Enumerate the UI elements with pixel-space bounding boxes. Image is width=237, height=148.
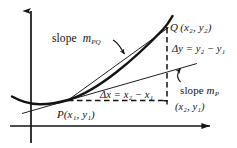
label-delta-x: Δx = x₂ − x₁	[100, 90, 153, 101]
label-slope-mp-symbol: m	[207, 84, 215, 96]
label-slope-mp-subscript: P	[215, 90, 219, 97]
label-slope-mpq-word: slope	[52, 32, 77, 44]
label-point-p: P(x₁, y₁)	[57, 109, 95, 120]
point-q-marker	[166, 27, 168, 29]
slope-p-leader-icon	[178, 69, 181, 83]
label-slope-mp: slope mP	[180, 85, 219, 96]
label-point-p-name: P	[57, 108, 64, 120]
label-point-p-coords: (x₁, y₁)	[64, 108, 95, 120]
label-slope-mpq-subscript: PQ	[91, 38, 101, 46]
label-slope-mpq-symbol: m	[83, 32, 91, 44]
label-foot-point-coords: (x₂, y₁)	[175, 102, 205, 113]
corner-tick	[164, 101, 168, 105]
label-point-q: Q (x₂, y₂)	[170, 22, 211, 33]
slope-pq-leader-icon	[113, 40, 125, 54]
label-delta-y: Δy = y₂ − y₁	[172, 44, 225, 55]
label-slope-mpq: slope mPQ	[52, 33, 101, 45]
label-point-q-name: Q	[170, 21, 178, 33]
point-p-marker	[67, 99, 69, 101]
label-slope-mp-word: slope	[180, 84, 204, 96]
label-point-q-coords: (x₂, y₂)	[180, 21, 211, 33]
slope-diagram-figure: slope mPQ Q (x₂, y₂) Δy = y₂ − y₁ slope …	[0, 0, 237, 148]
